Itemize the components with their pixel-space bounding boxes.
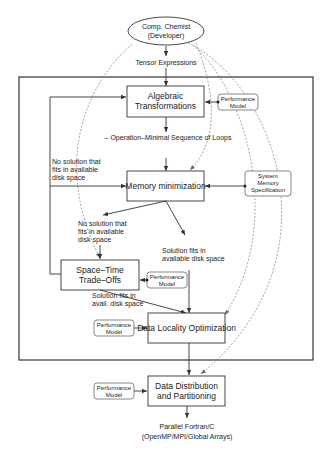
spacetime-label-2: Trade–Offs: [79, 275, 121, 285]
perf-model-3-label-1: Performance: [97, 322, 132, 328]
spacetime-label-1: Space–Time: [76, 265, 124, 275]
stage-memory-minimization: Memory minimization: [125, 171, 206, 201]
distribution-label-2: and Partitioning: [157, 391, 216, 401]
perf-model-1-label-2: Model: [230, 103, 246, 109]
memory-label: Memory minimization: [125, 181, 206, 191]
distribution-label-1: Data Distribution: [155, 381, 218, 391]
performance-model-3: Performance Model: [94, 320, 134, 336]
perf-model-4-label-2: Model: [106, 392, 122, 398]
developer-label-2: (Developer): [148, 32, 185, 40]
sysmem-label-2: Memory: [257, 180, 279, 186]
stage-data-locality-optimization: Data Locality Optimization: [137, 313, 236, 343]
no-solution-mid-2: fits in available: [78, 228, 124, 235]
performance-model-4: Performance Model: [94, 383, 134, 399]
op-minimal-label: – Operation–Minimal Sequence of Loops: [105, 134, 232, 142]
output-label-1: Parallel Fortran/C: [160, 423, 215, 430]
system-memory-specification: System Memory Specification: [245, 171, 291, 196]
solution-fits-avail-2: avail. disk space: [92, 300, 143, 308]
stage-algebraic-transformations: Algebraic Transformations: [127, 86, 204, 117]
performance-model-1: Performance Model: [218, 94, 258, 110]
no-solution-mid-3: disk space: [78, 236, 111, 244]
solution-fits-1: Solution fits in: [162, 247, 206, 254]
sysmem-label-1: System: [258, 173, 278, 179]
tensor-expressions-label: Tensor Expressions: [135, 59, 197, 67]
perf-model-3-label-2: Model: [106, 329, 122, 335]
no-solution-mid-1: No solution that: [78, 220, 127, 227]
no-solution-left-1: No solution that: [52, 158, 101, 165]
developer-node: Comp. Chemist (Developer): [128, 17, 204, 45]
solution-fits-avail-1: Solution fits in: [92, 292, 136, 299]
performance-model-2: Performance Model: [147, 272, 187, 288]
solution-fits-2: available disk space: [162, 255, 225, 263]
developer-label-1: Comp. Chemist: [142, 23, 190, 31]
no-solution-left-2: fits in available: [52, 166, 98, 173]
no-solution-left-3: disk space: [52, 174, 85, 182]
feedback-loop: [50, 97, 126, 274]
perf-model-4-label-1: Performance: [97, 385, 132, 391]
algebraic-label-2: Transformations: [135, 101, 196, 111]
output-label-2: (OpenMP/MPI/Global Arrays): [142, 433, 233, 441]
stage-space-time-tradeoffs: Space–Time Trade–Offs: [61, 260, 139, 290]
algebraic-label-1: Algebraic: [148, 91, 184, 101]
synthesis-flow-diagram: Comp. Chemist (Developer) Tensor Express…: [0, 0, 328, 458]
sysmem-label-3: Specification: [251, 187, 285, 193]
stage-data-distribution: Data Distribution and Partitioning: [148, 376, 225, 406]
locality-label: Data Locality Optimization: [137, 323, 236, 333]
perf-model-2-label-1: Performance: [150, 274, 185, 280]
perf-model-1-label-1: Performance: [221, 96, 256, 102]
perf-model-2-label-2: Model: [159, 281, 175, 287]
